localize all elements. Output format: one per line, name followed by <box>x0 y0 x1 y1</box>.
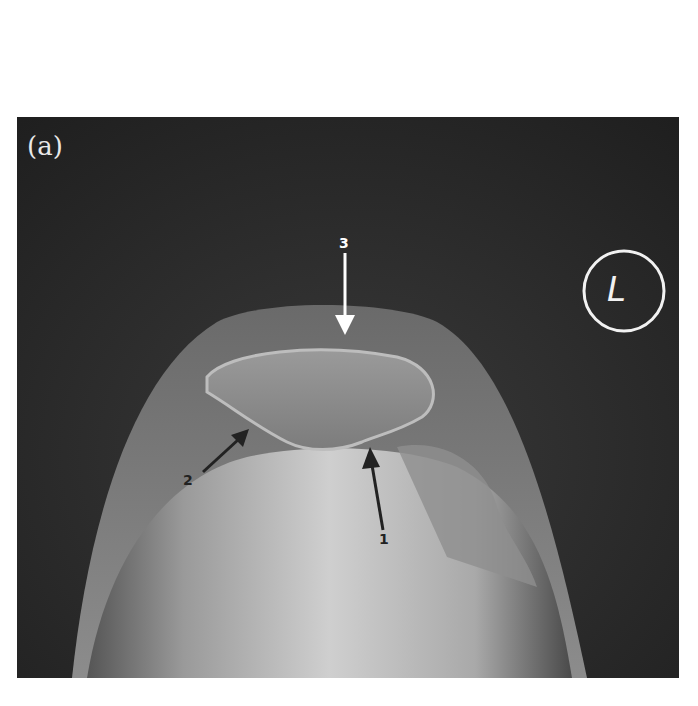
arrow-label-1: 1 <box>379 531 389 547</box>
xray-image <box>17 117 679 678</box>
arrow-label-2: 2 <box>183 472 193 488</box>
xray-figure: (a) L 3 2 1 <box>17 117 679 678</box>
arrow-label-3: 3 <box>339 235 349 251</box>
side-marker-letter: L <box>607 269 626 309</box>
panel-label: (a) <box>27 131 63 161</box>
